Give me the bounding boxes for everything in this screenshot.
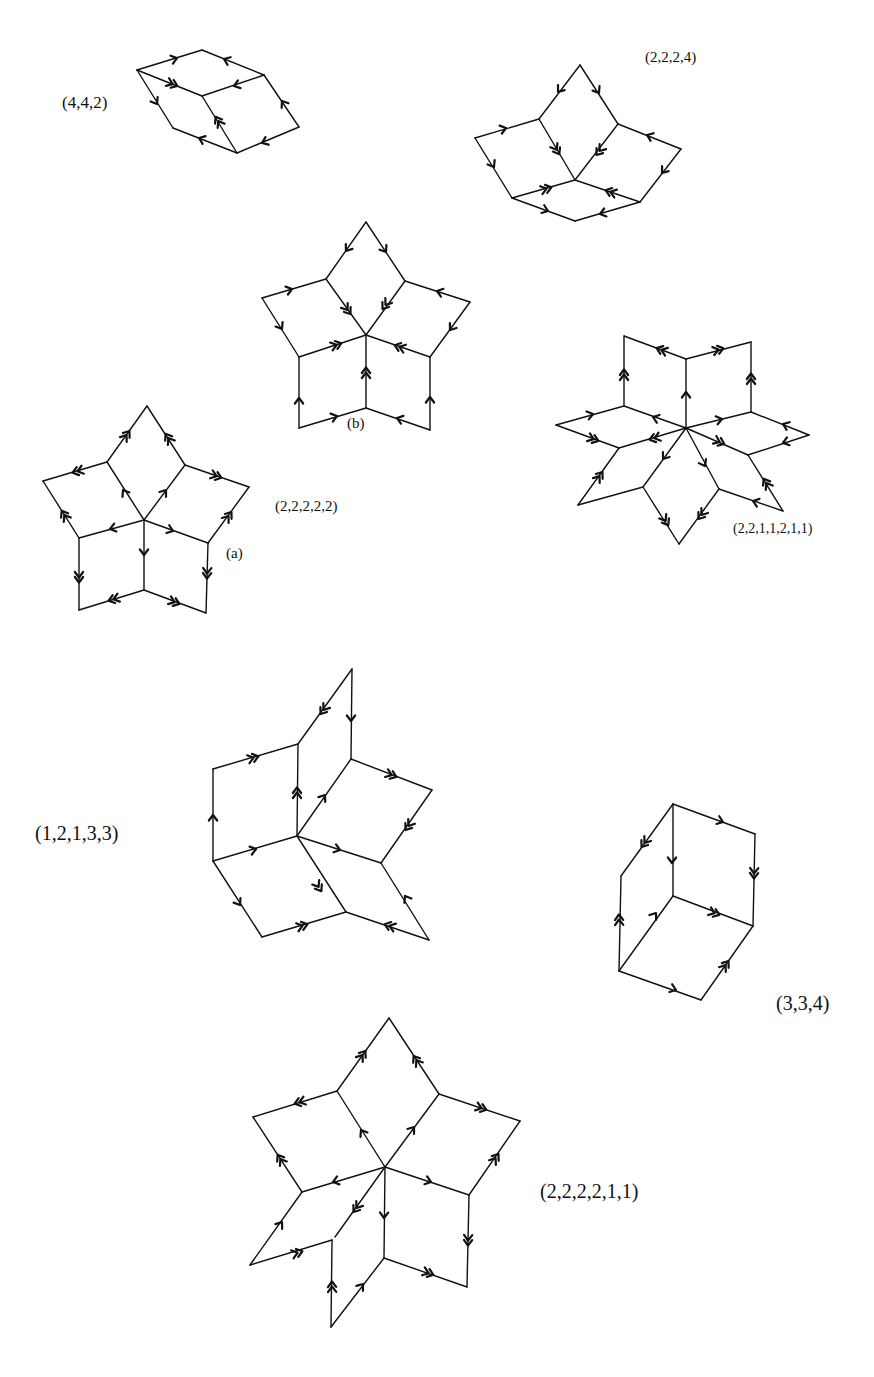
tile-edge [640, 149, 681, 202]
tile-edge [202, 75, 264, 96]
tile-edge [202, 96, 237, 153]
tile-edge [580, 65, 618, 124]
tile-edge [384, 1167, 385, 1258]
tile-edge [346, 912, 429, 940]
fig-12133 [209, 669, 432, 940]
figure-label: (3,3,4) [776, 992, 829, 1015]
tile-edge [619, 896, 673, 971]
tile-edge [439, 1094, 520, 1121]
tile-edge [137, 50, 202, 70]
tile-edge [475, 138, 512, 198]
tile-edge [262, 279, 326, 298]
tile-edge [385, 1167, 469, 1195]
tile-edge [144, 520, 208, 543]
figure-label: (a) [226, 545, 243, 562]
double-arrow-icon [708, 907, 715, 915]
tile-edge [173, 128, 237, 153]
fig-334 [615, 804, 758, 1000]
single-arrow-icon [699, 459, 706, 466]
tile-edge [624, 336, 686, 359]
double-arrow-icon [312, 880, 319, 887]
tile-edge [686, 412, 751, 428]
single-arrow-icon [669, 984, 676, 992]
fig-2211211 [556, 336, 809, 544]
double-arrow-icon [296, 923, 302, 931]
tile-edge [299, 335, 366, 357]
single-arrow-icon [250, 847, 256, 855]
fig-222211 [250, 1018, 520, 1327]
tiling-diagram-canvas [0, 0, 874, 1377]
tile-edge [250, 1192, 302, 1265]
tile-edge [384, 1258, 467, 1287]
tile-edge [250, 1240, 332, 1265]
tile-edge [202, 50, 264, 75]
tile-edge [298, 669, 352, 744]
figure-label: (4,4,2) [62, 93, 107, 113]
tile-edge [619, 971, 701, 1000]
tile-edge [213, 744, 298, 769]
figure-label: (2,2,1,1,2,1,1) [733, 521, 812, 537]
fig-b [262, 222, 470, 430]
tile-edge [137, 70, 173, 128]
tile-edge [621, 804, 673, 876]
tile-edge [575, 202, 640, 221]
tile-edge [331, 1258, 384, 1327]
tile-edge [753, 834, 755, 926]
fig-2224 [475, 65, 681, 221]
tile-edge [748, 435, 809, 455]
figure-label: (2,2,2,4) [645, 49, 696, 66]
tile-edge [262, 912, 346, 937]
tile-edge [79, 590, 144, 610]
tile-edge [556, 425, 619, 448]
tile-edge [137, 70, 202, 96]
double-arrow-icon [291, 1250, 297, 1258]
tile-edge [719, 489, 783, 511]
tile-edge [326, 279, 366, 335]
tile-edge [351, 669, 352, 759]
double-arrow-icon [615, 919, 623, 925]
tile-edge [619, 876, 621, 971]
tile-edge [751, 412, 809, 435]
tile-edge [475, 119, 539, 138]
tile-edge [618, 124, 681, 149]
tile-edge [302, 1167, 385, 1192]
double-arrow-icon [600, 144, 607, 151]
figure-label: (2,2,2,2,1,1) [540, 1180, 638, 1203]
tile-edge [578, 487, 643, 505]
tile-edge [144, 465, 185, 520]
tile-edge [335, 1167, 385, 1237]
tile-edge [366, 335, 430, 357]
single-arrow-icon [404, 896, 411, 903]
tile-edge [619, 428, 686, 448]
fig-442 [137, 50, 299, 153]
tile-edge [107, 406, 147, 462]
tile-edge [213, 861, 262, 937]
configuration-label: (2,2,2,2,2) [275, 498, 338, 515]
tile-edge [43, 481, 79, 538]
figure-label: (1,2,1,3,3) [35, 822, 118, 845]
fig-a [43, 406, 249, 613]
figure-label: (b) [347, 415, 365, 432]
tile-edge [701, 926, 753, 1000]
tile-edge [686, 428, 719, 489]
tile-edge [512, 198, 575, 221]
tile-edge [512, 180, 575, 198]
single-arrow-icon [668, 858, 676, 864]
tile-edge [686, 428, 748, 455]
tile-edge [673, 804, 755, 834]
tile-edge [237, 127, 299, 153]
tile-edge [643, 487, 679, 544]
tile-edge [385, 1094, 439, 1167]
tile-edge [43, 462, 107, 481]
single-arrow-icon [649, 913, 656, 920]
tile-edge [556, 406, 624, 425]
